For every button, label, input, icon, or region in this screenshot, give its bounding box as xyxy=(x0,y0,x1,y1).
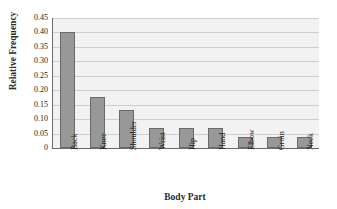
y-tick-label: 0.40 xyxy=(20,28,48,36)
x-tick-label: Knee xyxy=(100,133,108,150)
x-tick-label: Wrist xyxy=(159,133,167,150)
x-axis-tick-labels: BackKneeShoulderWristHipHandElbowGroinNe… xyxy=(52,150,318,190)
y-tick-label: 0.10 xyxy=(20,115,48,123)
x-axis-title: Body Part xyxy=(52,192,318,202)
bars-layer xyxy=(53,18,319,148)
x-tick-label: Hand xyxy=(219,133,227,150)
y-tick-label: 0.30 xyxy=(20,57,48,65)
x-tick-label: Neck xyxy=(307,133,315,150)
y-tick-label: 0 xyxy=(20,144,48,152)
y-axis-tick-labels: 0.450.400.350.300.250.200.150.100.050 xyxy=(20,14,48,149)
bar xyxy=(60,32,75,148)
x-tick-label: Shoulder xyxy=(130,121,138,150)
y-tick-label: 0.15 xyxy=(20,101,48,109)
y-tick-label: 0.35 xyxy=(20,43,48,51)
y-tick-label: 0.45 xyxy=(20,14,48,22)
plot-area xyxy=(52,18,319,149)
y-tick-label: 0.05 xyxy=(20,130,48,138)
x-tick-label: Elbow xyxy=(248,129,256,150)
x-tick-label: Back xyxy=(71,134,79,150)
y-tick-label: 0.25 xyxy=(20,72,48,80)
y-tick-label: 0.20 xyxy=(20,86,48,94)
x-tick-label: Hip xyxy=(189,138,197,150)
bar-chart-screenshot: Relative Frequency 0.450.400.350.300.250… xyxy=(0,0,337,209)
y-axis-title: Relative Frequency xyxy=(8,5,18,97)
x-tick-label: Groin xyxy=(278,131,286,150)
chart-title xyxy=(0,0,337,2)
